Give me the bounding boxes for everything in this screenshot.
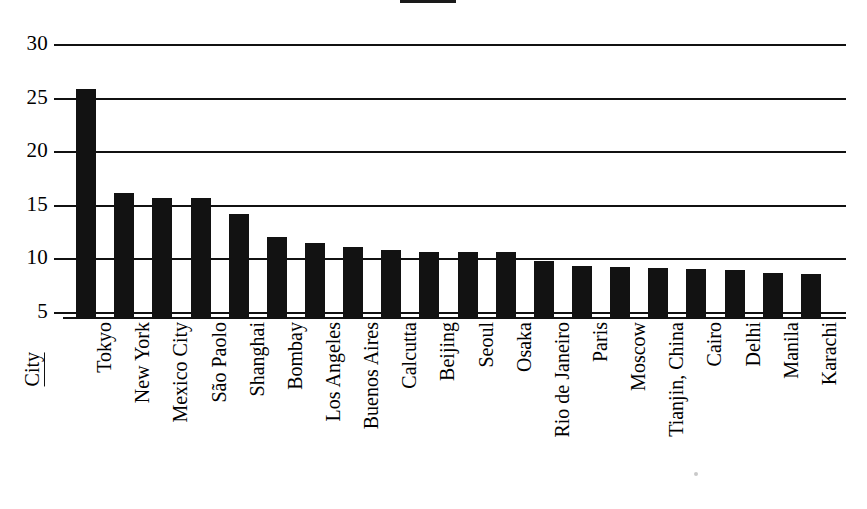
- x-axis-labels-group: TokyoNew YorkMexico CitySão PaoloShangha…: [0, 322, 867, 509]
- x-axis-tick-label-text: Rio de Janeiro: [552, 322, 572, 446]
- x-axis-tick-label-text: Beijing: [437, 322, 457, 389]
- x-axis-tick-label-text: Los Angeles: [323, 322, 343, 429]
- x-axis-tick-label-text: Manila: [781, 322, 801, 387]
- x-axis-tick-label-text: Osaka: [514, 322, 534, 380]
- x-axis-tick-label: Beijing: [437, 322, 457, 389]
- bar[interactable]: [496, 252, 516, 318]
- x-axis-tick-label: São Paolo: [209, 322, 229, 411]
- bar[interactable]: [686, 269, 706, 318]
- x-axis-tick-label: Rio de Janeiro: [552, 322, 572, 446]
- bar[interactable]: [152, 198, 172, 318]
- x-axis-tick-label: Bombay: [285, 322, 305, 398]
- x-axis-tick-label: Osaka: [514, 322, 534, 380]
- x-axis-tick-label-text: Delhi: [743, 322, 763, 374]
- bar[interactable]: [725, 270, 745, 318]
- bar[interactable]: [381, 250, 401, 318]
- x-axis-tick-label: Paris: [590, 322, 610, 370]
- x-axis-tick-label-text: Seoul: [476, 322, 496, 376]
- x-axis-tick-label-text: Moscow: [628, 322, 648, 399]
- x-axis-tick-label: Tokyo: [94, 322, 114, 381]
- bar[interactable]: [191, 198, 211, 318]
- x-axis-tick-label-text: New York: [132, 322, 152, 411]
- x-axis-tick-label-text: Karachi: [819, 322, 839, 393]
- x-axis-tick-label-text: Cairo: [704, 322, 724, 374]
- x-axis-tick-label: Delhi: [743, 322, 763, 374]
- x-axis-tick-label: Shanghai: [247, 322, 267, 404]
- x-axis-tick-label-text: Bombay: [285, 322, 305, 398]
- x-axis-tick-label-text: Paris: [590, 322, 610, 370]
- x-axis-tick-label-text: Buenos Aires: [361, 322, 381, 437]
- x-axis-tick-label-text: Calcutta: [399, 322, 419, 397]
- bar[interactable]: [267, 237, 287, 318]
- x-axis-tick-label: Calcutta: [399, 322, 419, 397]
- bar[interactable]: [76, 89, 96, 318]
- x-axis-tick-label-text: Shanghai: [247, 322, 267, 404]
- x-axis-title-label: City: [21, 352, 45, 386]
- bar[interactable]: [229, 214, 249, 318]
- scan-speck: [694, 472, 698, 476]
- bar[interactable]: [305, 243, 325, 318]
- x-axis-tick-label: Buenos Aires: [361, 322, 381, 437]
- bar[interactable]: [458, 252, 478, 318]
- chart-page: 51015202530 TokyoNew YorkMexico CitySão …: [0, 0, 867, 509]
- x-axis-title: City: [22, 352, 42, 386]
- x-axis-tick-label: Cairo: [704, 322, 724, 374]
- x-axis-tick-label: Karachi: [819, 322, 839, 393]
- x-axis-tick-label: New York: [132, 322, 152, 411]
- x-axis-tick-label: Seoul: [476, 322, 496, 376]
- bar[interactable]: [648, 268, 668, 318]
- x-axis-tick-label: Moscow: [628, 322, 648, 399]
- x-axis-tick-label: Los Angeles: [323, 322, 343, 429]
- x-axis-tick-label-text: São Paolo: [209, 322, 229, 411]
- bar[interactable]: [610, 267, 630, 318]
- x-axis-tick-label-text: Tianjin, China: [666, 322, 686, 445]
- plot-area: 51015202530: [0, 0, 867, 330]
- bar[interactable]: [419, 252, 439, 318]
- bar[interactable]: [763, 273, 783, 318]
- x-axis-tick-label: Tianjin, China: [666, 322, 686, 445]
- bar[interactable]: [572, 266, 592, 318]
- bars-group: [0, 0, 867, 319]
- x-axis-tick-label: Mexico City: [170, 322, 190, 431]
- x-axis-tick-label: Manila: [781, 322, 801, 387]
- x-axis-tick-label-text: Tokyo: [94, 322, 114, 381]
- bar[interactable]: [343, 247, 363, 318]
- x-axis-tick-label-text: Mexico City: [170, 322, 190, 431]
- bar[interactable]: [114, 193, 134, 318]
- bar[interactable]: [534, 261, 554, 318]
- bar[interactable]: [801, 274, 821, 318]
